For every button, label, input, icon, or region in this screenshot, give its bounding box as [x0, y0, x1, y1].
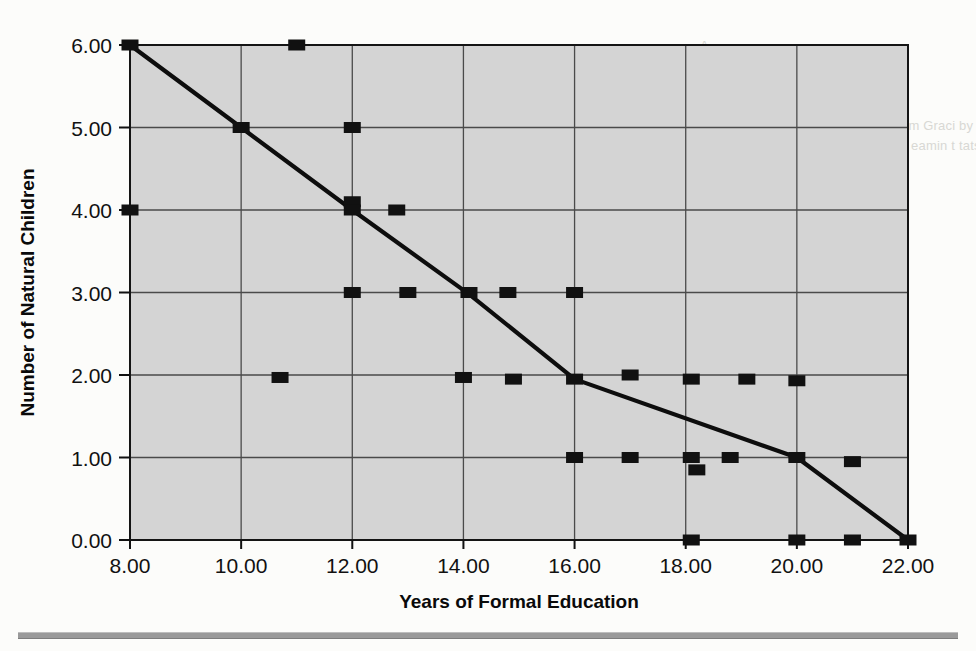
scatter-marker [566, 374, 583, 385]
x-tick-label: 8.00 [110, 554, 151, 577]
scatter-marker [788, 535, 805, 546]
scatter-marker [788, 452, 805, 463]
y-tick-label: 0.00 [71, 529, 112, 552]
scatter-marker [566, 287, 583, 298]
scatter-marker [455, 372, 472, 383]
scatter-marker [460, 287, 477, 298]
scatter-marker [622, 452, 639, 463]
scatter-marker [344, 205, 361, 216]
y-tick-label: 4.00 [71, 199, 112, 222]
scatter-plot-chart: 8.0010.0012.0014.0016.0018.0020.0022.000… [0, 0, 976, 651]
x-tick-label: 20.00 [771, 554, 824, 577]
scatter-marker [272, 372, 289, 383]
x-tick-label: 10.00 [215, 554, 268, 577]
scatter-marker [288, 40, 305, 51]
scatter-marker [688, 464, 705, 475]
scatter-marker [844, 456, 861, 467]
y-tick-label: 3.00 [71, 282, 112, 305]
scatter-marker [622, 370, 639, 381]
scatter-marker [122, 40, 139, 51]
y-tick-label: 6.00 [71, 34, 112, 57]
scatter-marker [844, 535, 861, 546]
scatter-marker [399, 287, 416, 298]
scatter-marker [344, 122, 361, 133]
y-tick-label: 2.00 [71, 364, 112, 387]
scatter-marker [499, 287, 516, 298]
x-tick-label: 22.00 [882, 554, 935, 577]
x-axis-title: Years of Formal Education [399, 591, 639, 612]
y-tick-label: 1.00 [71, 447, 112, 470]
scatter-marker [683, 452, 700, 463]
scatter-marker [722, 452, 739, 463]
scatter-marker [233, 122, 250, 133]
y-axis-title: Number of Natural Children [17, 168, 38, 416]
scatter-marker [683, 374, 700, 385]
scatter-marker [738, 374, 755, 385]
scatter-marker [683, 535, 700, 546]
scatter-marker [566, 452, 583, 463]
scatter-marker [344, 287, 361, 298]
x-tick-label: 16.00 [548, 554, 601, 577]
x-tick-label: 14.00 [437, 554, 490, 577]
x-tick-label: 18.00 [659, 554, 712, 577]
x-tick-label: 12.00 [326, 554, 379, 577]
scatter-marker [900, 535, 917, 546]
scatter-marker [388, 205, 405, 216]
scatter-marker [122, 205, 139, 216]
scatter-marker [788, 375, 805, 386]
y-tick-label: 5.00 [71, 117, 112, 140]
scatter-marker [505, 374, 522, 385]
figure-container: 8.0010.0012.0014.0016.0018.0020.0022.000… [0, 0, 976, 651]
figure-bottom-rule [18, 632, 958, 639]
